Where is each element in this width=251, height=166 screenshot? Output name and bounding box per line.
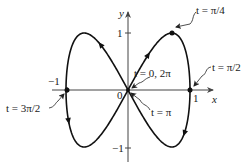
y-tick-label-neg1: −1 (112, 142, 124, 154)
x-axis-label: x (211, 93, 217, 105)
label-t-3pi-2: t = 3π/2 (6, 102, 40, 114)
pointer-t-pi-2 (194, 67, 211, 86)
point-t-3pi-2 (65, 88, 70, 93)
x-tick-label-neg1: −1 (48, 75, 60, 87)
point-origin (126, 88, 130, 92)
x-tick-label-1: 1 (193, 92, 199, 104)
point-t-pi-2 (188, 88, 193, 93)
label-t-pi: t = π (151, 106, 172, 118)
pointer-t-3pi-2 (49, 94, 64, 108)
parametric-curve-diagram: y x 1 −1 −1 1 0 t = π/4 t = π/2 t = 0, 2… (0, 0, 251, 166)
origin-label: 0 (117, 89, 123, 101)
label-t-pi-2: t = π/2 (212, 61, 241, 73)
y-tick-label-1: 1 (117, 27, 123, 39)
y-axis-label: y (118, 7, 124, 19)
label-t-0-2pi: t = 0, 2π (134, 67, 171, 79)
point-t-pi-4 (170, 31, 175, 36)
pointer-t-pi-4 (176, 12, 196, 27)
direction-arrow-icon (181, 129, 188, 137)
label-t-pi-4: t = π/4 (196, 4, 225, 16)
